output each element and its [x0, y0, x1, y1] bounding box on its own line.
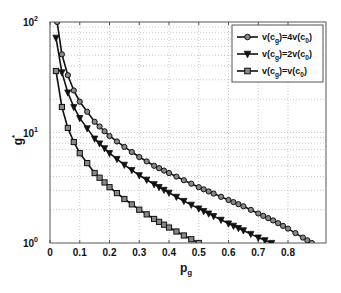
x-tick-label: 0.2	[103, 247, 117, 258]
chart-figure: 00.10.20.30.40.50.60.70.8 100101102 pg g…	[0, 0, 341, 293]
x-tick-label: 0.4	[162, 247, 176, 258]
x-tick-label: 0.5	[192, 247, 206, 258]
x-axis-label: pg	[180, 261, 192, 277]
y-tick-label: 100	[23, 236, 38, 249]
y-tick-label: 102	[23, 15, 38, 28]
y-tick-label: 101	[23, 126, 38, 139]
x-tick-label: 0.8	[281, 247, 295, 258]
x-tick-label: 0.6	[222, 247, 236, 258]
x-tick-label: 0	[47, 247, 53, 258]
legend: v(cg)=4v(c0)v(cg)=2v(c0)v(cg)=v(c0)	[232, 25, 323, 82]
x-tick-label: 0.7	[251, 247, 265, 258]
x-tick-label: 0.3	[132, 247, 146, 258]
x-tick-label: 0.1	[73, 247, 87, 258]
y-axis-ticks: 100101102	[23, 15, 38, 249]
